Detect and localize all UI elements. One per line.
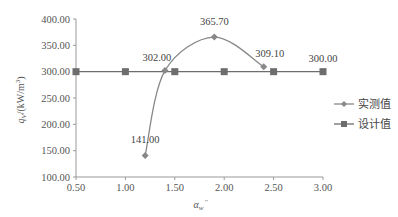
legend-label: 实测值 xyxy=(358,97,391,111)
legend-square-icon xyxy=(341,121,347,127)
design-marker xyxy=(122,68,129,75)
y-axis-label: qV/(kW/m3) xyxy=(14,76,28,123)
y-tick-label: 400.00 xyxy=(41,14,70,25)
x-tick-label: 2.50 xyxy=(264,182,282,193)
design-marker xyxy=(73,68,80,75)
x-tick-label: 2.00 xyxy=(215,182,233,193)
design-marker xyxy=(270,68,277,75)
design-marker xyxy=(171,68,178,75)
y-tick-label: 100.00 xyxy=(41,172,70,183)
y-tick-label: 250.00 xyxy=(41,93,70,104)
data-label: 309.10 xyxy=(255,48,284,59)
x-tick-label: 1.00 xyxy=(116,182,134,193)
x-axis-label: αw'' xyxy=(194,198,208,212)
y-tick-label: 300.00 xyxy=(41,66,70,77)
y-tick-label: 200.00 xyxy=(41,119,70,130)
measured-marker xyxy=(211,34,218,41)
chart: 100.00150.00200.00250.00300.00350.00400.… xyxy=(0,0,398,217)
x-tick-label: 3.00 xyxy=(314,182,332,193)
data-label: 302.00 xyxy=(142,52,171,63)
data-label: 141.00 xyxy=(131,134,160,145)
legend-label: 设计值 xyxy=(358,118,391,131)
x-tick-label: 0.50 xyxy=(67,182,85,193)
y-tick-label: 350.00 xyxy=(41,40,70,51)
data-label: 365.70 xyxy=(200,16,229,27)
measured-marker xyxy=(161,67,168,74)
y-tick-label: 150.00 xyxy=(41,145,70,156)
design-marker xyxy=(221,68,228,75)
legend-diamond-icon xyxy=(341,101,347,107)
data-label: 300.00 xyxy=(309,53,338,64)
x-tick-label: 1.50 xyxy=(166,182,184,193)
measured-marker xyxy=(142,152,149,159)
design-marker xyxy=(320,68,327,75)
